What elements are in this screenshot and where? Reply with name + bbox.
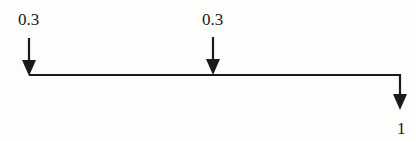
down-arrow-icon: [22, 38, 36, 76]
diagram-canvas: 0.3 0.3 1: [0, 0, 416, 141]
load-label-mid: 0.3: [202, 11, 223, 28]
load-label-left: 0.3: [18, 11, 39, 28]
down-arrow-icon: [393, 74, 407, 110]
output-label-right: 1: [397, 120, 406, 137]
down-arrow-icon: [206, 37, 220, 75]
